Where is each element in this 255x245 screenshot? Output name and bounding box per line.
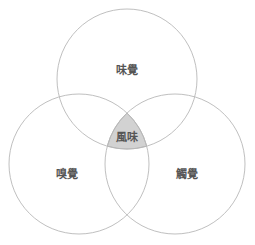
label-taste: 味覺: [116, 63, 138, 77]
venn-diagram: 味覺 嗅覺 觸覺 風味: [0, 0, 255, 245]
label-flavor-intersection: 風味: [116, 130, 138, 144]
label-smell: 嗅覺: [56, 167, 78, 181]
label-touch: 觸覺: [176, 167, 198, 181]
